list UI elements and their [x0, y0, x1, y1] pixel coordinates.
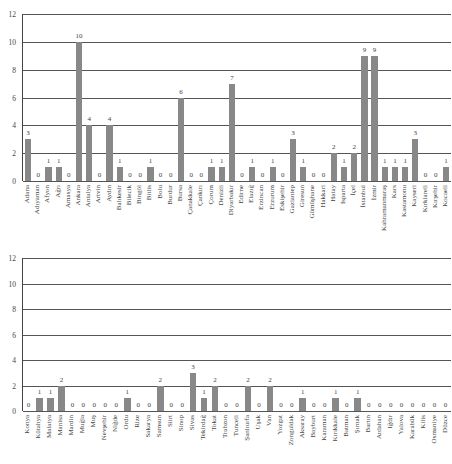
y-tick-label: 0 [0, 407, 16, 416]
gridline [23, 335, 451, 336]
x-tick-label: Kütahya [34, 415, 42, 464]
value-label: 0 [253, 401, 265, 409]
bar [47, 398, 54, 411]
bar [332, 398, 339, 411]
y-tick-label: 12 [0, 254, 16, 263]
x-tick-label: Bartın [364, 415, 372, 464]
x-tick-label: Rize [133, 415, 141, 464]
bar [299, 398, 306, 411]
gridline [23, 360, 451, 361]
x-tick-label: Tunceli [232, 415, 240, 464]
gridline [23, 258, 451, 259]
bar [58, 386, 65, 412]
x-tick-label: Nevşehir [100, 415, 108, 464]
x-tick-label: Tekirdağ [199, 415, 207, 464]
bar [157, 386, 164, 412]
x-tick-label: Karabük [408, 415, 416, 464]
bar [245, 386, 252, 412]
x-tick-label: Zonguldak [287, 415, 295, 464]
value-label: 1 [198, 388, 210, 396]
y-tick-label: 2 [0, 381, 16, 390]
bar [190, 373, 197, 411]
x-tick-label: Konya [23, 415, 31, 464]
value-label: 1 [121, 388, 133, 396]
x-tick-label: Bayburt [309, 415, 317, 464]
x-tick-label: Düzce [441, 415, 449, 464]
x-tick-label: Trabzon [221, 415, 229, 464]
x-tick-label: Şırnak [353, 415, 361, 464]
x-tick-label: Van [265, 415, 273, 464]
x-tick-label: Batman [342, 415, 350, 464]
value-label: 0 [341, 401, 353, 409]
x-tick-label: Kırıkkale [331, 415, 339, 464]
value-label: 2 [264, 376, 276, 384]
x-tick-label: Osmaniye [430, 415, 438, 464]
bar [124, 398, 131, 411]
value-label: 2 [55, 376, 67, 384]
value-label: 2 [154, 376, 166, 384]
y-tick-label: 10 [0, 279, 16, 288]
bar [354, 398, 361, 411]
x-tick-label: Karaman [320, 415, 328, 464]
x-tick-label: Mardin [67, 415, 75, 464]
value-label: 0 [143, 401, 155, 409]
x-tick-label: Samsun [155, 415, 163, 464]
x-tick-label: Ordu [122, 415, 130, 464]
x-tick-label: Malatya [45, 415, 53, 464]
x-tick-label: Niğde [111, 415, 119, 464]
y-tick-label: 8 [0, 305, 16, 314]
y-tick-label: 4 [0, 356, 16, 365]
gridline [23, 411, 451, 412]
x-tick-label: Manisa [56, 415, 64, 464]
value-label: 0 [286, 401, 298, 409]
value-label: 1 [297, 388, 309, 396]
x-tick-label: Sinop [177, 415, 185, 464]
gridline [23, 309, 451, 310]
bar [36, 398, 43, 411]
y-tick-label: 6 [0, 330, 16, 339]
x-tick-label: Aksaray [298, 415, 306, 464]
x-tick-label: Yalova [397, 415, 405, 464]
bar [267, 386, 274, 412]
x-tick-label: Ardahan [375, 415, 383, 464]
x-tick-label: Tokat [210, 415, 218, 464]
x-tick-label: Yozgat [276, 415, 284, 464]
x-tick-label: Siirt [166, 415, 174, 464]
value-label: 0 [319, 401, 331, 409]
value-label: 1 [44, 388, 56, 396]
value-label: 0 [23, 401, 35, 409]
gridline [23, 386, 451, 387]
x-tick-label: Iğdır [386, 415, 394, 464]
value-label: 0 [176, 401, 188, 409]
value-label: 0 [440, 401, 452, 409]
value-label: 2 [242, 376, 254, 384]
bar [201, 398, 208, 411]
x-tick-label: Muş [89, 415, 97, 464]
x-tick-label: Sivas [188, 415, 196, 464]
value-label: 0 [110, 401, 122, 409]
value-label: 1 [352, 388, 364, 396]
x-tick-label: Şanlıurfa [243, 415, 251, 464]
plot-area-bottom: 011200000100200312002020010010100000000 [22, 258, 451, 411]
value-label: 0 [231, 401, 243, 409]
bar [212, 386, 219, 412]
x-tick-label: Uşak [254, 415, 262, 464]
x-tick-label: Muğla [78, 415, 86, 464]
gridline [23, 284, 451, 285]
x-tick-label: Kilis [419, 415, 427, 464]
value-label: 2 [209, 376, 221, 384]
value-label: 3 [187, 363, 199, 371]
value-label: 1 [330, 388, 342, 396]
x-tick-label: Sakarya [144, 415, 152, 464]
